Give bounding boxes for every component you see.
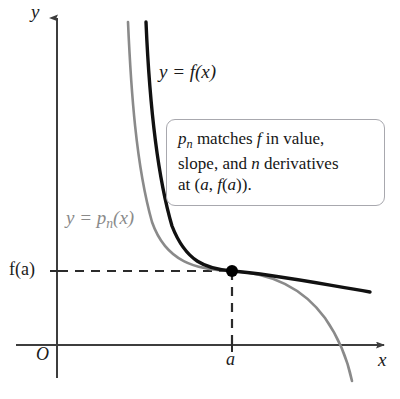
callout-text-matches: matches [193,129,257,148]
callout-text-slope: slope, and [178,154,251,173]
callout-line-3: at (a, f(a)). [178,174,374,196]
function-label-body: f(x) [190,61,216,82]
y-tick-label-fa: f(a) [9,260,35,279]
x-axis-label: x [378,350,386,370]
origin-label: O [36,345,49,364]
callout-n: n [251,154,260,173]
callout-comma: , [209,175,218,194]
callout-p: p [178,129,187,148]
function-curve-label: y = f(x) [159,62,216,82]
callout-a1: a [200,175,209,194]
polynomial-label-suffix: (x) [113,207,134,228]
tangency-point-marker [226,265,238,277]
callout-line-1: pn matches f in value, [178,128,374,153]
callout-text-at: at ( [178,175,200,194]
polynomial-label-p: p [97,207,107,228]
polynomial-curve-label: y = pn(x) [66,208,134,232]
callout-paren-close: )). [236,175,252,194]
polynomial-label-prefix: y = [66,207,97,228]
taylor-polynomial-diagram: y x O f(a) a y = f(x) y = pn(x) pn match… [0,0,400,399]
callout-box: pn matches f in value, slope, and n deri… [166,119,385,206]
callout-text-in-value: in value, [262,129,325,148]
callout-a2: a [228,175,237,194]
function-label-prefix: y = [159,61,190,82]
callout-text-derivatives: derivatives [260,154,339,173]
y-axis-label: y [31,2,39,22]
x-tick-label-a: a [226,350,235,369]
callout-line-2: slope, and n derivatives [178,153,374,175]
